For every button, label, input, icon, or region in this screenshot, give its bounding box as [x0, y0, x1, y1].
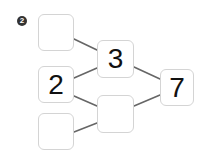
line-top-left-to-mid-top — [74, 39, 97, 50]
answer-box-top-left[interactable] — [38, 14, 74, 51]
number-box-mid-left: 2 — [38, 66, 74, 103]
line-mid-bottom-to-right — [134, 95, 160, 106]
answer-box-bottom-left[interactable] — [38, 113, 74, 150]
answer-box-mid-bottom[interactable] — [97, 95, 134, 133]
number-box-mid-top: 3 — [97, 40, 134, 78]
number-box-right: 7 — [160, 69, 194, 106]
line-mid-left-to-mid-bottom — [74, 96, 97, 106]
line-mid-top-to-right — [134, 67, 160, 79]
line-bottom-left-to-mid-bottom — [74, 123, 97, 132]
line-mid-left-to-mid-top — [74, 68, 97, 78]
